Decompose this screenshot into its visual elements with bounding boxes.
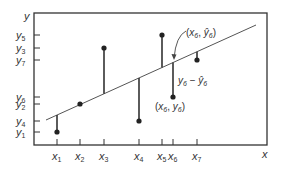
- point-2: [77, 101, 82, 106]
- x-tick-label: x7: [191, 150, 202, 163]
- point-6: [170, 94, 175, 99]
- x-axis-label: x: [261, 148, 268, 160]
- x-ticks: x1x2x3x4x5x6x7: [51, 139, 202, 163]
- residual-label: y6 − ŷ6: [177, 75, 207, 87]
- y-tick-label: y7: [15, 54, 26, 67]
- x-tick-label: x4: [133, 150, 144, 163]
- observed-point-label: (x6, y6): [155, 101, 185, 113]
- x-tick-label: x5: [156, 150, 167, 163]
- fitted-point-label: (x6, ŷ6): [186, 27, 216, 39]
- regression-residuals-diagram: y x y5y3y7y6y2y4y1 x1x2x3x4x5x6x7 (x6, ŷ…: [0, 0, 283, 171]
- point-3: [101, 45, 106, 50]
- point-4: [136, 118, 141, 123]
- x-tick-label: x1: [51, 150, 62, 163]
- point-1: [54, 129, 59, 134]
- y-tick-label: y5: [15, 29, 26, 42]
- x-tick-label: x3: [98, 150, 109, 163]
- x-tick-label: x2: [74, 150, 85, 163]
- y-axis-label: y: [23, 10, 31, 22]
- point-7: [194, 57, 199, 62]
- x-tick-label: x6: [167, 150, 178, 163]
- fitted-point-arrow: [174, 31, 186, 58]
- regression-line: [46, 25, 256, 120]
- arrow-head-icon: [172, 54, 177, 60]
- y-ticks: y5y3y7y6y2y4y1: [15, 29, 40, 139]
- point-5: [159, 32, 164, 37]
- plot-frame: [34, 13, 267, 145]
